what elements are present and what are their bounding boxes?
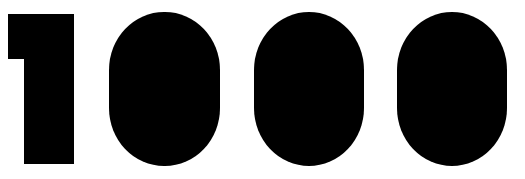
number-graphic: 1000	[0, 0, 525, 179]
digit-one-stem	[24, 14, 74, 164]
digit-zero-1	[109, 12, 220, 166]
digit-zero-3	[397, 12, 507, 166]
digit-zero-2	[254, 12, 364, 166]
